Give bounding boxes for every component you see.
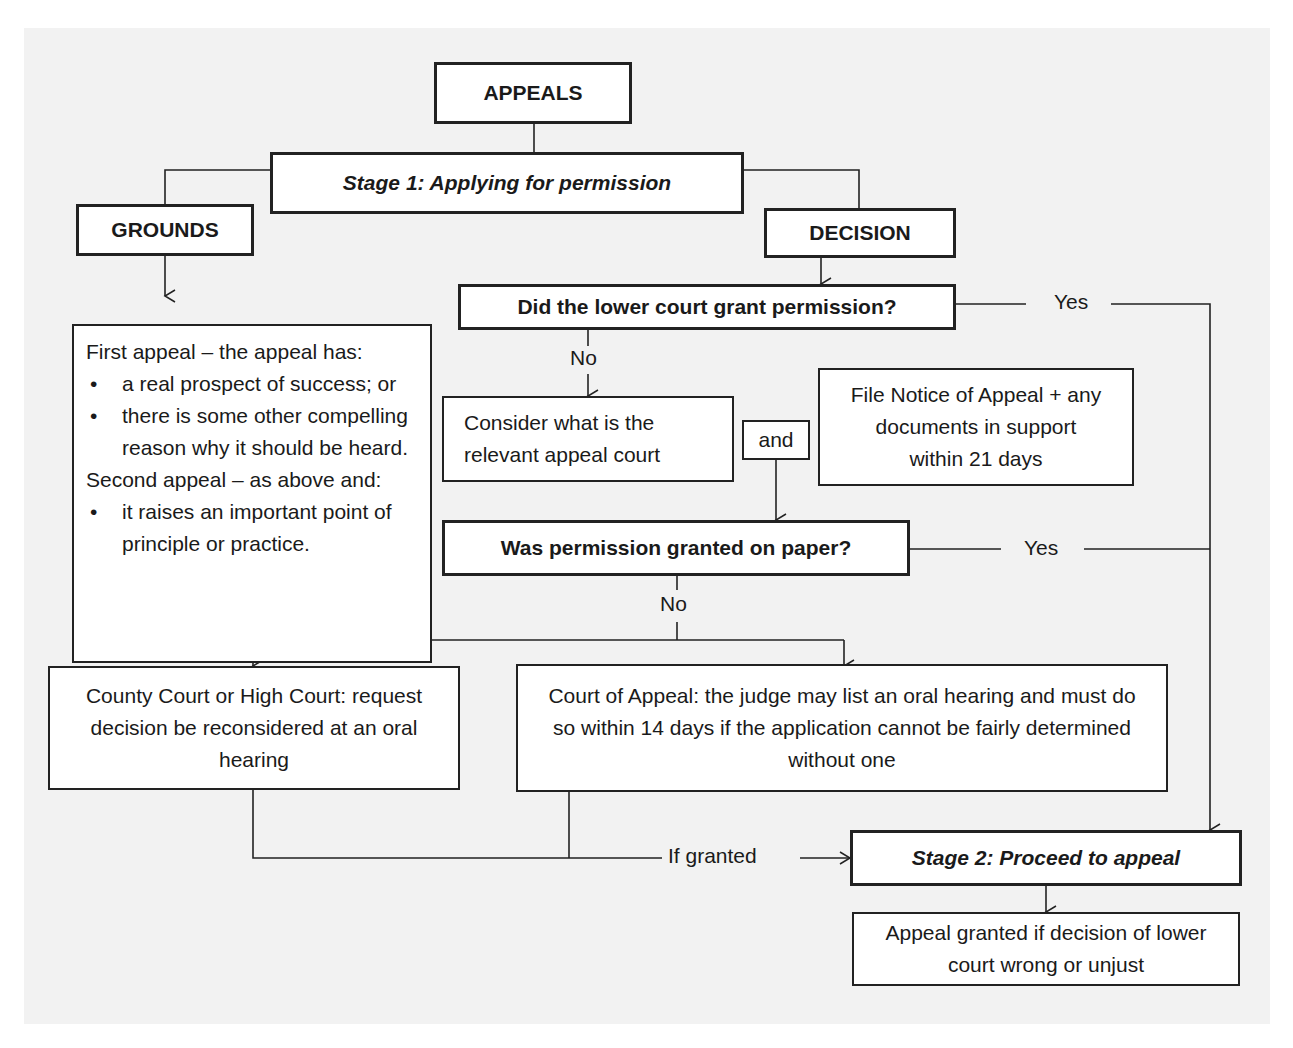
stage1-node: Stage 1: Applying for permission: [270, 152, 744, 214]
paper-question-node: Was permission granted on paper?: [442, 520, 910, 576]
and-node: and: [742, 420, 810, 460]
decision-node: DECISION: [764, 208, 956, 258]
second-appeal-heading: Second appeal – as above and:: [86, 464, 418, 496]
flowchart-canvas: APPEALS Stage 1: Applying for permission…: [24, 28, 1270, 1024]
and-label: and: [758, 424, 793, 456]
grounds-node: GROUNDS: [76, 204, 254, 256]
decision-label: DECISION: [809, 217, 911, 249]
edge-label-no: No: [654, 592, 693, 616]
lower-court-question-label: Did the lower court grant permission?: [517, 291, 896, 323]
bullet-icon: •: [86, 496, 122, 560]
file-notice-label: File Notice of Appeal + any documents in…: [850, 379, 1102, 475]
file-notice-node: File Notice of Appeal + any documents in…: [818, 368, 1134, 486]
bullet-item: • a real prospect of success; or: [86, 368, 418, 400]
appeal-granted-node: Appeal granted if decision of lower cour…: [852, 912, 1240, 986]
stage2-node: Stage 2: Proceed to appeal: [850, 830, 1242, 886]
edge-label-yes: Yes: [1018, 536, 1064, 560]
court-of-appeal-label: Court of Appeal: the judge may list an o…: [536, 680, 1148, 776]
stage2-label: Stage 2: Proceed to appeal: [912, 842, 1180, 874]
bullet-icon: •: [86, 400, 122, 464]
appeals-node: APPEALS: [434, 62, 632, 124]
bullet-text: a real prospect of success; or: [122, 368, 396, 400]
edge-label-no: No: [564, 346, 603, 370]
bullet-item: • it raises an important point of princi…: [86, 496, 418, 560]
bullet-icon: •: [86, 368, 122, 400]
grounds-label: GROUNDS: [111, 214, 218, 246]
edge-label-if-granted: If granted: [662, 844, 763, 868]
appeals-label: APPEALS: [483, 77, 582, 109]
lower-court-question-node: Did the lower court grant permission?: [458, 284, 956, 330]
county-high-court-node: County Court or High Court: request deci…: [48, 666, 460, 790]
edge-label-yes: Yes: [1048, 290, 1094, 314]
county-high-court-label: County Court or High Court: request deci…: [68, 680, 440, 776]
court-of-appeal-node: Court of Appeal: the judge may list an o…: [516, 664, 1168, 792]
bullet-text: there is some other compelling reason wh…: [122, 400, 418, 464]
consider-court-label: Consider what is the relevant appeal cou…: [464, 407, 732, 471]
appeal-granted-label: Appeal granted if decision of lower cour…: [874, 917, 1218, 981]
first-appeal-heading: First appeal – the appeal has:: [86, 336, 418, 368]
consider-court-node: Consider what is the relevant appeal cou…: [442, 396, 734, 482]
bullet-item: • there is some other compelling reason …: [86, 400, 418, 464]
stage1-label: Stage 1: Applying for permission: [343, 167, 671, 199]
bullet-text: it raises an important point of principl…: [122, 496, 418, 560]
paper-question-label: Was permission granted on paper?: [501, 532, 851, 564]
grounds-detail-box: First appeal – the appeal has: • a real …: [72, 324, 432, 663]
